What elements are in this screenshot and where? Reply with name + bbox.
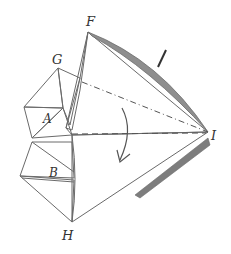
shadow-edge-lower [135, 138, 210, 198]
flap-a-inner [32, 108, 72, 138]
label-h: H [61, 228, 74, 243]
label-b: B [48, 166, 58, 180]
label-i: I [210, 128, 217, 143]
flap-g-top [24, 68, 63, 108]
flap-b-crease [22, 178, 74, 182]
label-g: G [52, 52, 62, 67]
cone-upper [66, 32, 208, 135]
cone-lower [72, 132, 208, 222]
label-a: A [42, 112, 52, 126]
tick-mark [158, 50, 166, 67]
origami-diagram: F G A B H I [0, 0, 231, 254]
label-f: F [85, 14, 96, 29]
flap-b-lower [20, 176, 74, 222]
flap-b [20, 142, 74, 178]
